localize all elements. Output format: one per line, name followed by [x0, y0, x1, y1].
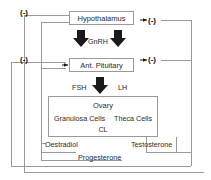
node-hypothalamus[interactable]: Hypothalamus — [69, 11, 134, 25]
node-anterior-pituitary[interactable]: Ant. Pituitary — [69, 58, 134, 72]
ovary-title-label: Ovary — [49, 101, 157, 110]
granulosa-cells-label: Granulosa Cells — [54, 114, 105, 123]
theca-cells-label: Theca Cells — [114, 114, 152, 123]
oestradiol-label: Oestradiol — [45, 140, 78, 149]
node-anterior-pituitary-label: Ant. Pituitary — [80, 61, 123, 70]
progesterone-label: Progesterone — [78, 153, 121, 162]
gnrh-label: GnRH — [88, 37, 108, 46]
lh-label: LH — [118, 83, 127, 92]
feedback-marker-mid-right: (-) — [148, 55, 156, 64]
node-hypothalamus-label: Hypothalamus — [78, 14, 126, 23]
feedback-marker-top-left: (-) — [20, 8, 28, 17]
diagram-canvas: Hypothalamus Ant. Pituitary Ovary Granul… — [0, 0, 211, 180]
feedback-marker-mid-left: (-) — [20, 55, 28, 64]
node-ovary[interactable]: Ovary Granulosa Cells Theca Cells CL — [48, 96, 158, 137]
testosterone-label: Testosterone — [131, 140, 172, 149]
gnrh-block-arrow-right — [110, 30, 126, 47]
gnrh-block-arrow-left — [73, 30, 89, 47]
fsh-lh-block-arrow — [92, 77, 108, 94]
corpus-luteum-label: CL — [49, 125, 157, 134]
fsh-label: FSH — [72, 83, 86, 92]
feedback-marker-top-right: (-) — [148, 16, 156, 25]
